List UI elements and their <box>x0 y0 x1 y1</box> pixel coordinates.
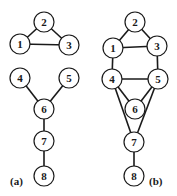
node-2: 2 <box>34 12 54 32</box>
node-label: 6 <box>41 103 47 115</box>
graph-b: 12345678(b) <box>102 12 168 188</box>
node-label: 7 <box>131 136 137 148</box>
node-label: 4 <box>109 73 115 85</box>
node-6: 6 <box>125 99 145 119</box>
graph-diagram: 12345678(a) 12345678(b) <box>0 0 177 196</box>
node-4: 4 <box>102 69 122 89</box>
node-3: 3 <box>147 36 167 56</box>
node-label: 3 <box>154 40 160 52</box>
node-label: 7 <box>41 135 47 147</box>
node-label: 2 <box>41 16 47 28</box>
node-8: 8 <box>124 166 144 186</box>
node-4: 4 <box>10 68 30 88</box>
node-7: 7 <box>34 131 54 151</box>
node-label: 8 <box>131 170 137 182</box>
node-5: 5 <box>148 69 168 89</box>
node-label: 2 <box>132 16 138 28</box>
node-label: 3 <box>66 39 72 51</box>
node-label: 5 <box>66 72 72 84</box>
panel-label-a: (a) <box>10 175 23 188</box>
node-5: 5 <box>59 68 79 88</box>
node-1: 1 <box>103 38 123 58</box>
node-2: 2 <box>125 12 145 32</box>
panel-label-b: (b) <box>149 175 163 188</box>
node-label: 1 <box>17 38 23 50</box>
node-1: 1 <box>10 34 30 54</box>
node-label: 4 <box>17 72 23 84</box>
node-label: 1 <box>110 42 116 54</box>
node-7: 7 <box>124 132 144 152</box>
node-label: 6 <box>132 103 138 115</box>
node-8: 8 <box>34 166 54 186</box>
node-6: 6 <box>34 99 54 119</box>
node-label: 8 <box>41 170 47 182</box>
node-label: 5 <box>155 73 161 85</box>
node-3: 3 <box>59 35 79 55</box>
graph-a: 12345678(a) <box>10 12 79 188</box>
